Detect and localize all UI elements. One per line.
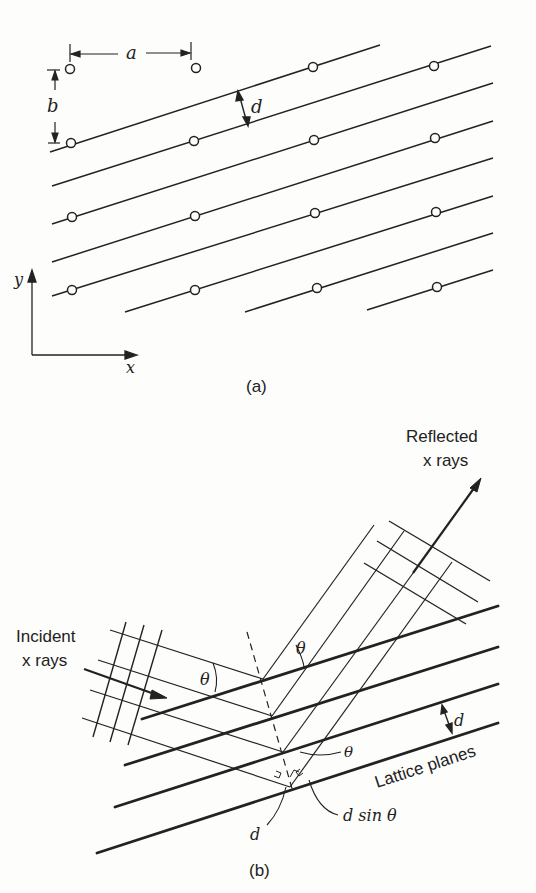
y-axis-label: y <box>13 270 24 289</box>
incident-wavefronts <box>93 622 162 745</box>
xy-axes <box>28 270 137 359</box>
label-d-construction: d <box>250 825 260 844</box>
incident-arrow <box>84 669 167 699</box>
label-a: a <box>126 42 137 63</box>
theta-arcs <box>213 645 341 825</box>
dimension-d-a <box>236 91 250 126</box>
lattice-planes-label: Lattice planes <box>372 741 478 791</box>
incident-label-line2: x rays <box>22 651 67 670</box>
incident-rays <box>82 630 290 787</box>
reflected-label-line2: x rays <box>423 451 468 470</box>
theta-incident: θ <box>200 670 210 689</box>
incident-label-line1: Incident <box>16 627 76 646</box>
normal-dashed-line <box>247 632 293 792</box>
theta-reflected: θ <box>296 639 306 658</box>
dimension-d-b <box>441 705 452 733</box>
reflected-arrow <box>413 478 481 573</box>
reflected-label-line1: Reflected <box>406 427 478 446</box>
d-sin-theta-label: d sin θ <box>343 806 397 825</box>
panel-a-lattice-lines <box>50 45 493 312</box>
reflected-wavefronts <box>364 521 490 624</box>
label-d-a: d <box>251 96 263 117</box>
caption-a: (a) <box>246 377 267 396</box>
label-b: b <box>47 95 59 116</box>
bragg-diffraction-figure: a b d y x (a) <box>0 0 536 893</box>
theta-construction: θ <box>344 743 353 761</box>
caption-b: (b) <box>249 861 270 880</box>
label-d-b: d <box>454 711 464 730</box>
x-axis-label: x <box>126 358 135 377</box>
